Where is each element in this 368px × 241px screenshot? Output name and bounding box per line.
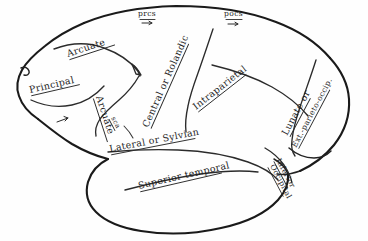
- label-superior-temporal: Superior temporal: [137, 159, 231, 191]
- label-arcuate-upper: Arcuate: [64, 36, 106, 59]
- cerebrum-outline-dorsal: [84, 6, 330, 58]
- frontal-pointer-arrow: [57, 117, 68, 123]
- label-pocs: pocs: [224, 9, 243, 18]
- prcs-arrow: [142, 21, 152, 24]
- pocs-arrow: [228, 22, 238, 25]
- brain-diagram-svg: prcs pocs Arcuate Principal Arcuate sca: [0, 0, 368, 241]
- label-principal: Principal: [28, 74, 75, 95]
- label-prcs: prcs: [138, 9, 156, 18]
- brain-sulci-figure: prcs pocs Arcuate Principal Arcuate sca: [0, 0, 368, 241]
- central-rolandic-sulcus-line: [186, 29, 213, 132]
- label-arcuate-lower: Arcuate: [94, 93, 117, 135]
- label-central-or-rolandic: Central or Rolandic: [140, 33, 191, 129]
- sca-sulcus-mark: [124, 126, 133, 138]
